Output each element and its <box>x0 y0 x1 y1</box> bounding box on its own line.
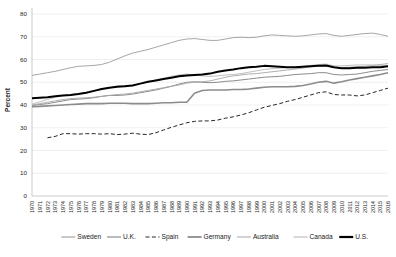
x-tick-label: 2014 <box>370 201 376 213</box>
x-tick-label: 2015 <box>377 201 383 213</box>
x-tick-label: 1998 <box>246 201 252 213</box>
x-tick-label: 1976 <box>76 201 82 213</box>
series-line-sweden <box>32 33 388 75</box>
x-tick-label: 2008 <box>323 201 329 213</box>
series-line-germany <box>32 73 388 107</box>
x-tick-label: 1978 <box>91 201 97 213</box>
y-axis-tick-labels: 01020304050607080 <box>20 10 27 199</box>
y-tick-label: 70 <box>20 33 27 40</box>
x-tick-label: 1977 <box>83 201 89 213</box>
x-tick-label: 1975 <box>68 201 74 213</box>
x-axis-tick-labels: 1970197119721973197419751976197719781979… <box>29 201 391 213</box>
legend-label-germany[interactable]: Germany <box>204 233 232 241</box>
y-tick-label: 30 <box>20 124 27 131</box>
x-tick-label: 1988 <box>169 201 175 213</box>
series-line-spain <box>47 88 388 138</box>
x-tick-label: 2002 <box>277 201 283 213</box>
labor-force-participation-line-chart: 01020304050607080 1970197119721973197419… <box>0 0 396 257</box>
y-tick-label: 20 <box>20 147 27 154</box>
x-tick-label: 1996 <box>230 201 236 213</box>
x-tick-label: 1983 <box>130 201 136 213</box>
x-tick-label: 1979 <box>99 201 105 213</box>
x-tick-label: 2013 <box>362 201 368 213</box>
x-tick-label: 2016 <box>385 201 391 213</box>
x-tick-label: 2011 <box>347 201 353 213</box>
series-line-us <box>32 65 388 98</box>
y-tick-label: 0 <box>24 192 28 199</box>
x-tick-label: 1990 <box>184 201 190 213</box>
x-tick-label: 1997 <box>238 201 244 213</box>
x-tick-label: 2006 <box>308 201 314 213</box>
x-tick-label: 1991 <box>192 201 198 213</box>
y-tick-label: 40 <box>20 101 27 108</box>
x-tick-label: 1999 <box>254 201 260 213</box>
x-tick-label: 1971 <box>37 201 43 213</box>
x-tick-label: 1987 <box>161 201 167 213</box>
chart-legend: SwedenU.K.SpainGermanyAustraliaCanadaU.S… <box>61 233 368 241</box>
x-tick-label: 2001 <box>269 201 275 213</box>
x-tick-label: 2000 <box>261 201 267 213</box>
legend-label-canada[interactable]: Canada <box>310 233 333 240</box>
x-tick-label: 1980 <box>107 201 113 213</box>
x-tick-label: 1972 <box>45 201 51 213</box>
x-tick-label: 1973 <box>52 201 58 213</box>
y-tick-label: 60 <box>20 56 27 63</box>
x-tick-label: 2003 <box>285 201 291 213</box>
legend-label-uk[interactable]: U.K. <box>123 233 136 240</box>
y-tick-label: 80 <box>20 10 27 17</box>
x-tick-label: 1993 <box>207 201 213 213</box>
x-tick-label: 1989 <box>176 201 182 213</box>
x-tick-label: 1986 <box>153 201 159 213</box>
x-tick-label: 2010 <box>339 201 345 213</box>
series-lines-group <box>32 33 388 138</box>
x-tick-label: 2009 <box>331 201 337 213</box>
x-tick-label: 1974 <box>60 201 66 213</box>
y-axis-title: Percent <box>4 87 11 112</box>
legend-label-australia[interactable]: Australia <box>253 233 279 240</box>
y-tick-label: 50 <box>20 78 27 85</box>
x-tick-label: 2004 <box>292 201 298 213</box>
x-tick-label: 2012 <box>354 201 360 213</box>
x-tick-label: 1984 <box>138 201 144 213</box>
series-line-uk <box>32 70 388 106</box>
x-tick-label: 2007 <box>316 201 322 213</box>
x-tick-label: 2005 <box>300 201 306 213</box>
x-tick-label: 1982 <box>122 201 128 213</box>
x-tick-label: 1994 <box>215 201 221 213</box>
x-tick-label: 1985 <box>145 201 151 213</box>
gridlines-group <box>32 8 388 196</box>
x-tick-label: 1981 <box>114 201 120 213</box>
x-tick-label: 1970 <box>29 201 35 213</box>
legend-label-us[interactable]: U.S. <box>355 233 368 240</box>
chart-container: 01020304050607080 1970197119721973197419… <box>0 0 396 257</box>
y-tick-label: 10 <box>20 169 27 176</box>
legend-label-spain[interactable]: Spain <box>161 233 178 241</box>
legend-label-sweden[interactable]: Sweden <box>77 233 101 240</box>
x-tick-label: 1992 <box>199 201 205 213</box>
x-tick-label: 1995 <box>223 201 229 213</box>
